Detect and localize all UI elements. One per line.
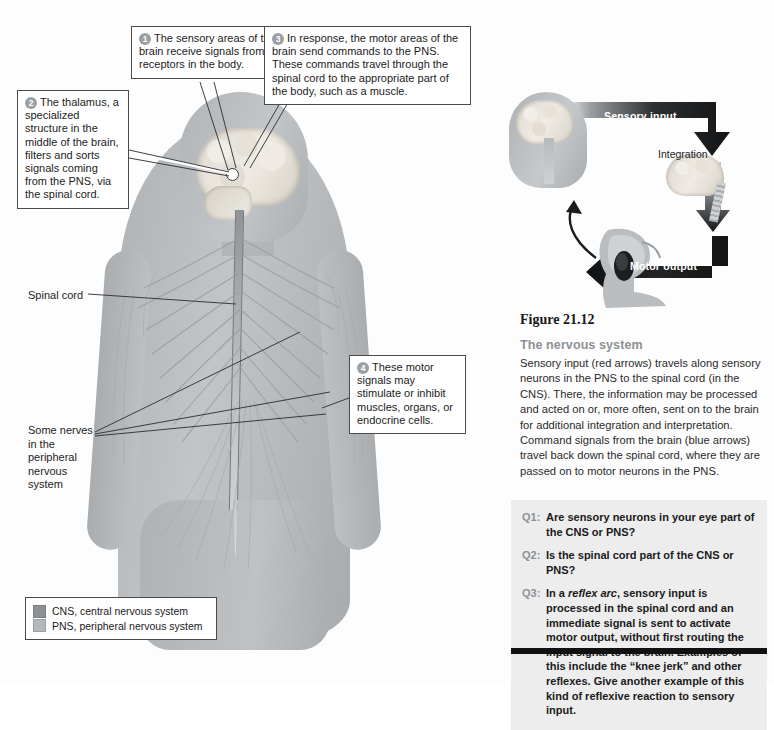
question-3-text-before: In a <box>546 587 568 599</box>
cycle-label-integration: Integration <box>658 148 708 160</box>
callout-4: 4These motor signals may stimulate or in… <box>349 355 466 434</box>
callout-1-number: 1 <box>139 33 151 45</box>
question-row-1: Q1: Are sensory neurons in your eye part… <box>522 510 756 539</box>
callout-4-text: These motor signals may stimulate or inh… <box>357 361 453 426</box>
callout-3-number: 3 <box>272 33 284 45</box>
nervous-system-cycle-diagram: Sensory input Integration Motor output <box>500 14 774 304</box>
label-peripheral-nerves: Some nerves in the peripheral nervous sy… <box>28 424 98 492</box>
callout-3: 3In response, the motor areas of the bra… <box>264 26 471 105</box>
figure-caption: Sensory input (red arrows) travels along… <box>520 356 766 479</box>
label-spinal-cord: Spinal cord <box>28 289 83 303</box>
questions-box: Q1: Are sensory neurons in your eye part… <box>511 500 767 730</box>
thalamus-marker <box>226 168 239 181</box>
legend: CNS, central nervous system PNS, periphe… <box>25 597 217 640</box>
question-1-tag: Q1: <box>522 510 546 539</box>
callout-2-number: 2 <box>25 97 37 109</box>
callout-4-number: 4 <box>357 362 369 374</box>
nervous-system-illustration: 1The sensory areas of the brain receive … <box>0 0 500 682</box>
callout-2-text: The thalamus, a specialized structure in… <box>25 96 119 200</box>
callout-3-text: In response, the motor areas of the brai… <box>272 32 458 97</box>
cycle-neck-illustration <box>544 138 554 184</box>
callout-1-text: The sensory areas of the brain receive s… <box>139 32 283 70</box>
figure-number: Figure 21.12 <box>520 312 594 328</box>
legend-label-cns: CNS, central nervous system <box>52 605 188 617</box>
cerebellum-illustration <box>204 186 252 220</box>
callout-2: 2The thalamus, a specialized structure i… <box>17 90 129 209</box>
legend-item-cns: CNS, central nervous system <box>33 605 209 618</box>
cycle-label-sensory-input: Sensory input <box>604 110 677 122</box>
right-column: Sensory input Integration Motor output F… <box>500 0 774 682</box>
legend-label-pns: PNS, peripheral nervous system <box>52 620 203 632</box>
legend-item-pns: PNS, peripheral nervous system <box>33 619 209 632</box>
peripheral-nerve-network <box>96 230 386 640</box>
cycle-label-motor-output: Motor output <box>630 260 697 272</box>
questions-box-rule <box>511 648 767 654</box>
question-row-2: Q2: Is the spinal cord part of the CNS o… <box>522 548 756 577</box>
question-1-text: Are sensory neurons in your eye part of … <box>546 510 756 539</box>
question-2-tag: Q2: <box>522 548 546 577</box>
legend-swatch-cns <box>33 605 46 618</box>
question-3-term: reflex arc <box>568 587 617 599</box>
question-2-text: Is the spinal cord part of the CNS or PN… <box>546 548 756 577</box>
legend-swatch-pns <box>33 619 46 632</box>
figure-title: The nervous system <box>520 338 643 352</box>
